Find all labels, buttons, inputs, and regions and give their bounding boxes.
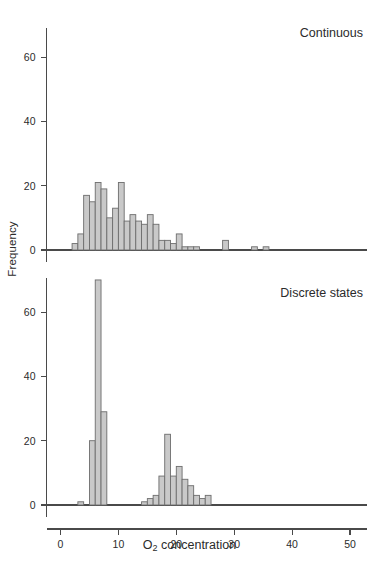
y-tick-label: 60 [24, 306, 36, 318]
x-axis-title: O2 concentration [0, 538, 379, 553]
histogram-bar [147, 215, 153, 250]
histogram-bar [194, 247, 200, 250]
histogram-bar [159, 476, 165, 505]
histogram-bar [176, 234, 182, 250]
histogram-bar [194, 495, 200, 505]
histogram-bar [124, 221, 130, 250]
panel-discrete: 020406001020304050 [0, 262, 379, 542]
histogram-bar [147, 499, 153, 505]
histogram-bar [101, 412, 107, 505]
histogram-bar [171, 476, 177, 505]
histogram-bar [89, 441, 95, 505]
histogram-bar [118, 182, 124, 250]
y-tick-label: 40 [24, 115, 36, 127]
y-tick-label: 40 [24, 370, 36, 382]
y-tick-label: 20 [24, 180, 36, 192]
histogram-bar [188, 247, 194, 250]
x-axis-title-main: O [143, 538, 153, 552]
histogram-bar [95, 280, 101, 505]
histogram-bar [223, 240, 229, 250]
panel-label-discrete: Discrete states [280, 286, 363, 300]
histogram-bar [130, 215, 136, 250]
histogram-bar [176, 466, 182, 505]
histogram-bar [113, 208, 119, 250]
histogram-bar [199, 499, 205, 505]
histogram-bar [84, 195, 90, 250]
chart-continuous: 0204060 [0, 0, 379, 268]
y-tick-label: 20 [24, 435, 36, 447]
histogram-bar [171, 244, 177, 250]
histogram-bar [182, 247, 188, 250]
y-tick-label: 60 [24, 51, 36, 63]
histogram-bar [165, 240, 171, 250]
chart-discrete: 020406001020304050 [0, 262, 379, 542]
histogram-bar [252, 247, 258, 250]
histogram-bar [153, 224, 159, 250]
panel-continuous: 0204060 [0, 0, 379, 268]
histogram-bar [188, 486, 194, 505]
histogram-bar [107, 218, 113, 250]
y-tick-label: 0 [30, 499, 36, 511]
histogram-bar [165, 434, 171, 505]
histogram-bar [142, 502, 148, 505]
histogram-bar [89, 202, 95, 250]
histogram-bar [159, 240, 165, 250]
histogram-bar [153, 495, 159, 505]
histogram-bar [182, 479, 188, 505]
x-axis-title-rest: concentration [158, 538, 237, 552]
histogram-bar [263, 247, 269, 250]
histogram-bar [78, 234, 84, 250]
histogram-bar [205, 495, 211, 505]
figure-histogram-pair: Frequency 0204060 020406001020304050 Con… [0, 0, 379, 569]
histogram-bar [78, 502, 84, 505]
histogram-bar [136, 221, 142, 250]
histogram-bar [142, 224, 148, 250]
y-tick-label: 0 [30, 244, 36, 256]
panel-label-continuous: Continuous [300, 26, 363, 40]
histogram-bar [95, 182, 101, 250]
histogram-bar [101, 189, 107, 250]
histogram-bar [72, 244, 78, 250]
